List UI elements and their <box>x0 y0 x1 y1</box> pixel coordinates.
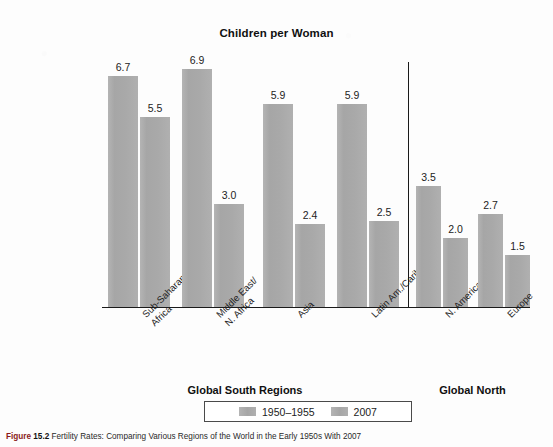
group-label-global-north: Global North <box>400 384 545 396</box>
figure-caption-word: Figure <box>6 432 31 441</box>
figure-caption-bar: Figure 15.2 Fertility Rates: Comparing V… <box>0 430 553 447</box>
bar-value-label: 5.5 <box>136 102 174 114</box>
bar-value-label: 6.7 <box>104 61 142 73</box>
bar-p1-5 <box>416 186 441 307</box>
bar-value-label: 2.0 <box>439 223 472 235</box>
bar-p1-6 <box>478 214 503 307</box>
figure-container: Children per Woman Global South Regions … <box>0 0 553 447</box>
bar-p2-1 <box>140 117 170 307</box>
legend-label-2007: 2007 <box>354 406 377 418</box>
bar-value-label: 1.5 <box>501 240 534 252</box>
figure-caption: Figure 15.2 Fertility Rates: Comparing V… <box>6 432 361 441</box>
bar-p1-1 <box>108 76 138 307</box>
bar-value-label: 5.9 <box>259 89 297 101</box>
figure-caption-number: 15.2 <box>33 432 49 441</box>
bar-value-label: 2.5 <box>365 206 403 218</box>
legend-label-1950-1955: 1950–1955 <box>262 406 315 418</box>
bar-p1-2 <box>182 69 212 307</box>
legend-entry-1950-1955: 1950–1955 <box>239 406 315 418</box>
bar-value-label: 3.5 <box>412 171 445 183</box>
legend-swatch-icon-1950-1955 <box>239 407 256 416</box>
bar-value-label: 5.9 <box>333 89 371 101</box>
bar-p2-3 <box>295 224 325 307</box>
bar-value-label: 2.4 <box>291 209 329 221</box>
figure-caption-text: Fertility Rates: Comparing Various Regio… <box>52 432 362 441</box>
bar-p1-3 <box>263 104 293 307</box>
bar-p1-4 <box>337 104 367 307</box>
chart-title: Children per Woman <box>0 27 553 39</box>
legend-swatch-icon-2007 <box>331 407 348 416</box>
bar-value-label: 2.7 <box>474 199 507 211</box>
legend-entry-2007: 2007 <box>331 406 377 418</box>
bar-value-label: 6.9 <box>178 54 216 66</box>
bar-value-label: 3.0 <box>210 189 248 201</box>
group-label-global-south: Global South Regions <box>140 384 350 396</box>
chart-legend: 1950–1955 2007 <box>204 401 412 422</box>
